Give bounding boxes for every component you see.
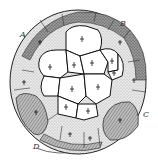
label-c: C <box>143 111 149 119</box>
embryo-illustration <box>0 0 158 162</box>
label-a: A <box>20 31 26 39</box>
label-d: D <box>33 143 39 151</box>
label-b: B <box>120 20 126 28</box>
